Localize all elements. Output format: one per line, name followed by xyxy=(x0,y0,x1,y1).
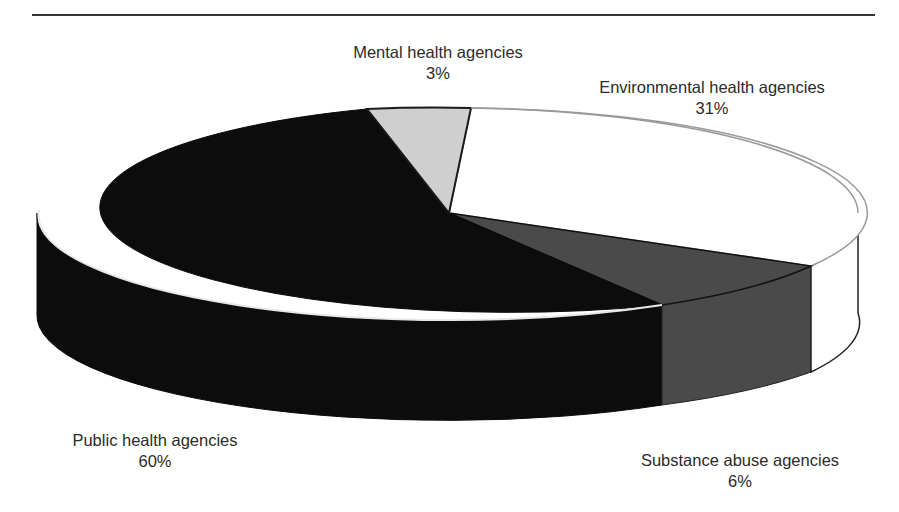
label-environmental-health: Environmental health agencies 31% xyxy=(562,77,862,119)
label-environmental-pct: 31% xyxy=(562,98,862,119)
label-mental-health: Mental health agencies 3% xyxy=(308,42,568,84)
label-public-name: Public health agencies xyxy=(40,430,270,451)
label-public-pct: 60% xyxy=(40,451,270,472)
label-mental-name: Mental health agencies xyxy=(308,42,568,63)
label-substance-abuse: Substance abuse agencies 6% xyxy=(600,450,880,492)
label-substance-pct: 6% xyxy=(600,471,880,492)
label-environmental-name: Environmental health agencies xyxy=(562,77,862,98)
label-mental-pct: 3% xyxy=(308,63,568,84)
label-substance-name: Substance abuse agencies xyxy=(600,450,880,471)
label-public-health: Public health agencies 60% xyxy=(40,430,270,472)
